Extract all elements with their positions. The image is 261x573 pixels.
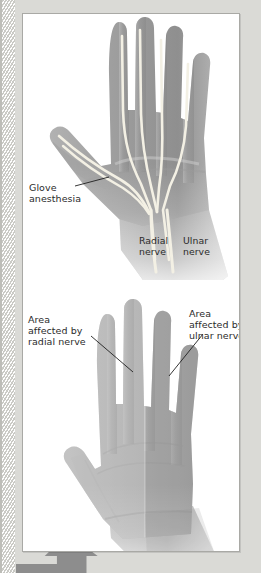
label-ulnar-nerve-line-1: Ulnar [183, 235, 210, 246]
figure-panel: Glove anesthesia Radial nerve Ulnar nerv… [22, 13, 240, 552]
label-area-ulnar-line-1: Area [189, 308, 240, 319]
label-area-radial-line-3: radial nerve [28, 336, 86, 347]
label-area-radial-line-2: affected by [28, 325, 86, 336]
label-area-affected-by-radial-nerve: Area affected by radial nerve [28, 314, 86, 348]
label-radial-nerve: Radial nerve [139, 235, 168, 257]
page-edge-hatch-texture [0, 0, 15, 573]
label-ulnar-nerve-line-2: nerve [183, 246, 210, 257]
label-radial-nerve-line-1: Radial [139, 235, 168, 246]
label-area-ulnar-line-2: affected by [189, 319, 240, 330]
label-glove-anesthesia-line-2: anesthesia [29, 193, 81, 204]
label-area-ulnar-line-3: ulnar nerve [189, 330, 240, 341]
label-radial-nerve-line-2: nerve [139, 246, 168, 257]
figure-root: Glove anesthesia Radial nerve Ulnar nerv… [0, 0, 261, 573]
label-ulnar-nerve: Ulnar nerve [183, 235, 210, 257]
label-area-affected-by-ulnar-nerve: Area affected by ulnar nerve [189, 308, 240, 342]
page-edge-line [0, 0, 2, 573]
label-glove-anesthesia-line-1: Glove [29, 182, 81, 193]
label-glove-anesthesia: Glove anesthesia [29, 182, 81, 204]
hand-illustrations [23, 14, 239, 551]
label-area-radial-line-1: Area [28, 314, 86, 325]
